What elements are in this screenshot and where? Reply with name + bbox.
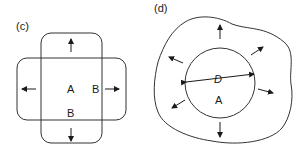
arrow-upper-left-icon [169, 57, 183, 63]
region-b-right-label: B [92, 83, 99, 95]
panel-d-label: (d) [154, 2, 167, 14]
diagram-canvas: (c) A B B (d) D A [0, 0, 306, 153]
region-a-label: A [215, 94, 223, 106]
panel-c: (c) A B B [16, 20, 126, 143]
panel-c-label: (c) [16, 20, 29, 32]
panel-d: (d) D A [154, 2, 292, 143]
arrow-lower-left-icon [172, 100, 185, 108]
region-b-bottom-label: B [67, 107, 74, 119]
diameter-label: D [214, 73, 222, 85]
region-a-label: A [67, 83, 75, 95]
irregular-boundary [154, 17, 292, 143]
arrow-upper-right-icon [251, 47, 263, 55]
arrow-right-icon [258, 89, 273, 93]
